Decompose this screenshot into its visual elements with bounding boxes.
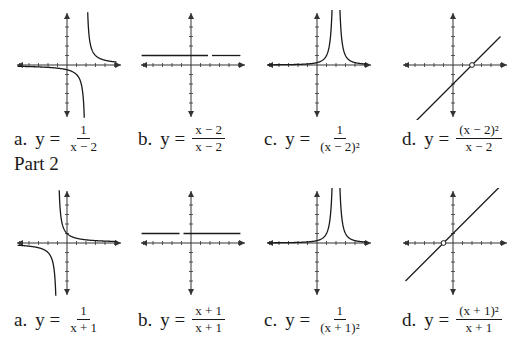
fraction: 1(x + 1)² [317,304,362,335]
denominator: x − 2 [462,139,495,154]
graph-part1-d [400,10,510,120]
item-letter: a. [14,309,27,331]
numerator: 1 [334,123,347,139]
numerator: x − 2 [192,123,225,139]
item-letter: a. [14,128,27,150]
graph-svg [138,188,248,298]
graph-part1-a [14,10,124,120]
equation-part1-c: c. y = 1(x − 2)² [264,123,363,154]
y-equals: y = [160,128,185,150]
denominator: (x − 2)² [317,139,362,154]
equation-part2-a: a. y = 1x + 1 [14,304,100,335]
fraction: 1x − 2 [67,123,100,154]
y-equals: y = [424,128,449,150]
y-equals: y = [35,309,60,331]
fraction: (x − 2)²x − 2 [456,123,501,154]
y-equals: y = [285,309,310,331]
graph-part1-b [138,10,248,120]
graph-svg [14,188,124,298]
part-2-heading: Part 2 [14,153,59,175]
equation-part1-b: b. y = x − 2x − 2 [138,123,225,154]
equation-part1-a: a. y = 1x − 2 [14,123,100,154]
item-letter: c. [264,309,277,331]
denominator: x − 2 [192,139,225,154]
y-equals: y = [285,128,310,150]
graph-svg [400,10,510,120]
denominator: x + 1 [192,320,225,335]
item-letter: b. [138,309,152,331]
fraction: 1(x − 2)² [317,123,362,154]
graph-part2-d [400,188,510,298]
denominator: x − 2 [67,139,100,154]
graph-svg [400,188,510,298]
numerator: x + 1 [192,304,225,320]
numerator: 1 [77,304,90,320]
y-equals: y = [35,128,60,150]
equation-part2-d: d. y = (x + 1)²x + 1 [402,304,502,335]
fraction: x + 1x + 1 [192,304,225,335]
y-equals: y = [160,309,185,331]
y-equals: y = [424,309,449,331]
item-letter: d. [402,128,416,150]
fraction: 1x + 1 [67,304,100,335]
graph-part1-c [264,10,374,120]
numerator: (x + 1)² [456,304,501,320]
numerator: (x − 2)² [456,123,501,139]
denominator: x + 1 [67,320,100,335]
equation-part2-c: c. y = 1(x + 1)² [264,304,363,335]
numerator: 1 [77,123,90,139]
fraction: (x + 1)²x + 1 [456,304,501,335]
equation-part1-d: d. y = (x − 2)²x − 2 [402,123,502,154]
equation-part2-b: b. y = x + 1x + 1 [138,304,225,335]
item-letter: d. [402,309,416,331]
graph-part2-a [14,188,124,298]
numerator: 1 [334,304,347,320]
graph-svg [138,10,248,120]
item-letter: b. [138,128,152,150]
denominator: x + 1 [462,320,495,335]
graph-part2-b [138,188,248,298]
item-letter: c. [264,128,277,150]
graph-svg [264,10,374,120]
graph-part2-c [264,188,374,298]
fraction: x − 2x − 2 [192,123,225,154]
graph-svg [14,10,124,120]
graph-svg [264,188,374,298]
denominator: (x + 1)² [317,320,362,335]
